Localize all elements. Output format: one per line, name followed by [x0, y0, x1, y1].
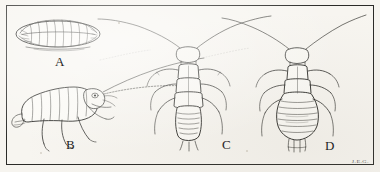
paper-speck	[40, 152, 42, 154]
figure-a-drawing	[16, 20, 100, 51]
figure-label-a: A	[55, 55, 65, 68]
figure-label-b: B	[66, 138, 75, 151]
paper-speck	[118, 22, 120, 24]
illustration-plate: A B C D J.E.G.	[0, 0, 380, 172]
artist-signature: J.E.G.	[352, 159, 369, 164]
figure-label-c: C	[222, 138, 231, 151]
figure-c-drawing	[98, 16, 271, 151]
figure-label-d: D	[325, 139, 335, 152]
plate-artwork	[0, 0, 380, 172]
figure-d-drawing	[222, 15, 366, 152]
paper-speck	[246, 150, 248, 152]
